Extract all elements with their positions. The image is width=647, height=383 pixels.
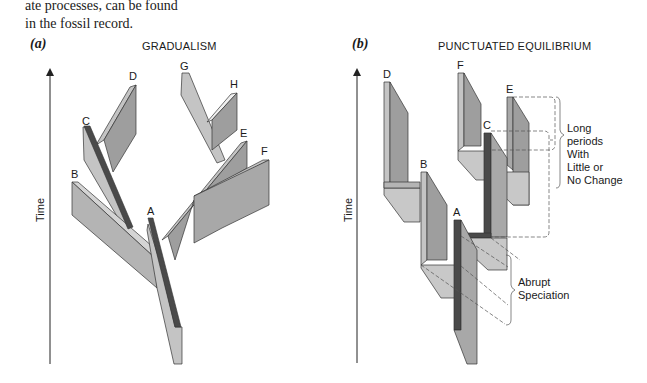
label-e-a: E [240,127,247,139]
label-a-a: A [147,205,155,217]
label-d-a: D [129,70,137,82]
label-f-a: F [261,145,268,157]
label-g-a: G [180,60,189,72]
label-h-a: H [230,78,238,90]
label-a-b: A [453,206,461,218]
annotation-long-periods: Long periods With Little or No Change [567,122,623,186]
punctuated-equilibrium-diagram: Time D B F E C A [342,59,623,364]
label-e-b: E [506,83,513,95]
gradualism-diagram: Time D C G H E F B A [34,60,269,364]
annotation-abrupt-speciation: Abrupt Speciation [518,276,569,301]
time-label-a: Time [34,198,46,222]
label-c-b: C [483,119,491,131]
label-f-b: F [457,59,464,71]
label-c-a: C [82,115,90,127]
label-b-b: B [420,158,427,170]
label-d-b: D [383,68,391,80]
time-label-b: Time [342,198,354,222]
brace-long [556,97,564,188]
label-b-a: B [71,168,78,180]
figure-canvas: Time D C G H E F B A [0,0,647,383]
